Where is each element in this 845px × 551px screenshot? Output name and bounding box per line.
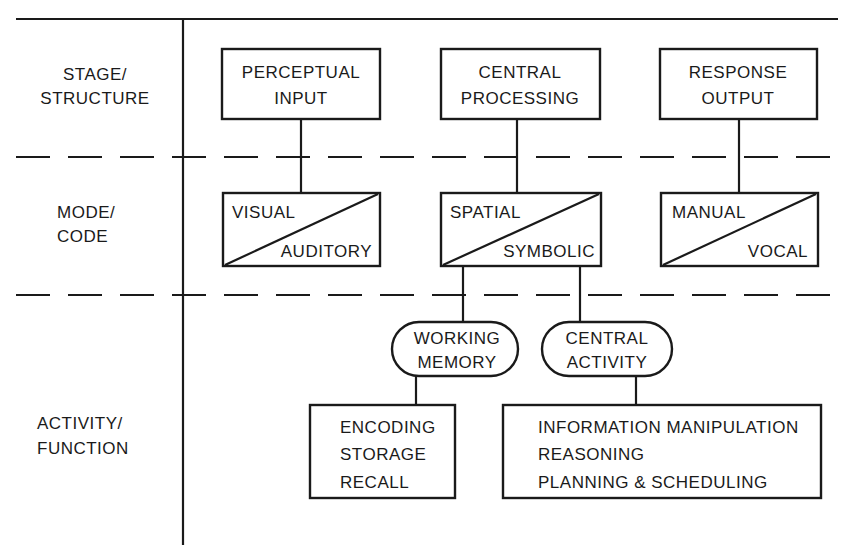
resource-pill-working-memory: WORKING MEMORY [392, 322, 518, 376]
svg-text:INFORMATION MANIPULATION: INFORMATION MANIPULATION [538, 418, 799, 437]
svg-text:PROCESSING: PROCESSING [461, 89, 579, 108]
svg-text:VOCAL: VOCAL [748, 242, 808, 261]
svg-text:ACTIVITY: ACTIVITY [567, 353, 648, 372]
svg-text:MODE/: MODE/ [57, 203, 115, 222]
mode-box-manual-vocal: MANUAL VOCAL [661, 193, 818, 266]
svg-text:ENCODING: ENCODING [340, 418, 436, 437]
function-box-memory: ENCODING STORAGE RECALL [310, 405, 455, 498]
svg-text:OUTPUT: OUTPUT [702, 89, 775, 108]
svg-text:CENTRAL: CENTRAL [566, 329, 649, 348]
mode-box-visual-auditory: VISUAL AUDITORY [223, 193, 380, 266]
svg-text:STORAGE: STORAGE [340, 445, 426, 464]
svg-text:PLANNING & SCHEDULING: PLANNING & SCHEDULING [538, 473, 768, 492]
svg-text:VISUAL: VISUAL [232, 203, 295, 222]
row-label-activity-function: ACTIVITY/ FUNCTION [37, 414, 129, 458]
row-label-mode-code: MODE/ CODE [57, 203, 115, 246]
svg-text:REASONING: REASONING [538, 445, 645, 464]
svg-text:SYMBOLIC: SYMBOLIC [503, 242, 595, 261]
svg-text:CENTRAL: CENTRAL [479, 63, 562, 82]
svg-text:RESPONSE: RESPONSE [689, 63, 787, 82]
svg-text:SPATIAL: SPATIAL [450, 203, 521, 222]
multiple-resource-diagram: STAGE/ STRUCTURE MODE/ CODE ACTIVITY/ FU… [0, 0, 845, 551]
svg-text:RECALL: RECALL [340, 473, 409, 492]
svg-text:AUDITORY: AUDITORY [281, 242, 372, 261]
svg-text:FUNCTION: FUNCTION [37, 439, 129, 458]
stage-box-perceptual-input: PERCEPTUAL INPUT [222, 49, 380, 119]
svg-text:STAGE/: STAGE/ [63, 65, 127, 84]
stage-box-response-output: RESPONSE OUTPUT [660, 49, 817, 119]
svg-text:MEMORY: MEMORY [417, 353, 496, 372]
svg-text:MANUAL: MANUAL [672, 203, 746, 222]
svg-text:ACTIVITY/: ACTIVITY/ [37, 414, 123, 433]
stage-box-central-processing: CENTRAL PROCESSING [441, 49, 600, 119]
svg-text:WORKING: WORKING [414, 329, 501, 348]
svg-text:PERCEPTUAL: PERCEPTUAL [242, 63, 360, 82]
svg-text:CODE: CODE [57, 227, 108, 246]
svg-text:INPUT: INPUT [274, 89, 328, 108]
resource-pill-central-activity: CENTRAL ACTIVITY [542, 322, 672, 376]
row-label-stage-structure: STAGE/ STRUCTURE [40, 65, 149, 108]
svg-text:STRUCTURE: STRUCTURE [40, 89, 149, 108]
function-box-central: INFORMATION MANIPULATION REASONING PLANN… [503, 405, 821, 498]
mode-box-spatial-symbolic: SPATIAL SYMBOLIC [441, 193, 601, 266]
